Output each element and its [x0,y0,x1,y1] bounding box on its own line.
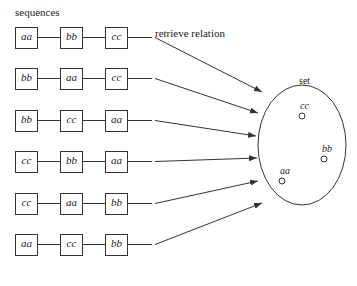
set-element-dot [279,178,285,184]
sequence-element-label: bb [15,71,38,83]
sequence-element-label: bb [105,196,128,208]
sequence-element-label: bb [105,237,128,249]
set-element-dot [321,156,327,162]
sequence-element-label: bb [15,113,38,125]
sequence-element-label: aa [60,196,83,208]
sequence-element-label: aa [105,113,128,125]
diagram-canvas [0,0,357,286]
sequence-element-label: cc [15,154,38,166]
set-element-label: bb [322,143,332,154]
sequence-element-label: cc [60,113,83,125]
retrieve-arrow [155,181,258,204]
sequence-element-label: cc [105,71,128,83]
sequence-element-label: cc [105,30,128,42]
sequence-element-label: aa [105,154,128,166]
retrieve-arrow [155,158,257,162]
sequence-element-label: bb [60,30,83,42]
sequence-element-label: cc [60,237,83,249]
arrow-label: retrieve relation [155,27,225,39]
sequences-title: sequences [15,6,60,18]
sequence-element-label: aa [60,71,83,83]
sequence-element-label: aa [15,237,38,249]
set-element-dot [299,113,305,119]
set-element-label: cc [300,100,309,111]
sequence-element-label: aa [15,30,38,42]
retrieve-arrow [155,203,262,245]
sequence-element-label: cc [15,196,38,208]
set-element-label: aa [280,165,290,176]
retrieve-arrow [155,79,258,114]
retrieve-arrow [155,121,256,137]
diagram: sequences retrieve relation set aabbccbb… [0,0,357,286]
set-label: set [299,75,310,86]
sequence-element-label: bb [60,154,83,166]
